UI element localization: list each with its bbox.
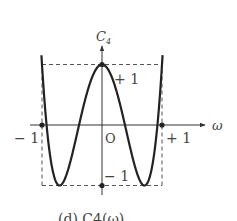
y-axis-label: C4 [96,29,111,46]
tick-label-x-pos: + 1 [166,130,191,146]
chart-caption: (d) C4(ω) [58,211,124,221]
chebyshev-chart: C4 ω − 1 + 1 O + 1 − 1 (d) C4(ω) [0,0,237,221]
tick-label-x-neg: − 1 [14,130,39,146]
tick-label-y-pos: + 1 [114,71,139,87]
x-axis-label: ω [212,118,223,133]
marked-point [39,122,44,127]
marked-point [159,122,164,127]
tick-label-y-neg: − 1 [104,168,129,184]
tick-label-origin: O [105,131,116,146]
y-axis-label-sub: 4 [105,37,111,46]
marked-point [99,62,104,67]
